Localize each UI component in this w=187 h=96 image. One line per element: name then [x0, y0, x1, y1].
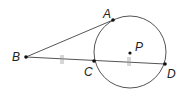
label-a: A — [102, 7, 111, 21]
point-b — [24, 55, 28, 59]
label-d: D — [167, 67, 176, 81]
label-p: P — [135, 40, 143, 54]
segment-ba — [26, 20, 113, 57]
label-c: C — [84, 65, 93, 79]
tick-mark-bc — [61, 55, 63, 64]
point-d — [163, 62, 167, 66]
tick-mark-cd — [128, 57, 130, 66]
point-c — [92, 59, 96, 63]
point-a — [111, 18, 115, 22]
label-b: B — [12, 50, 20, 64]
point-p — [128, 51, 131, 54]
geometry-diagram: A B C D P — [0, 0, 187, 96]
